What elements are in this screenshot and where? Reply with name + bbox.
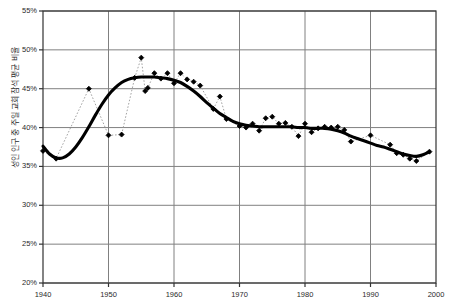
y-tick-label: 55% — [11, 7, 37, 15]
x-tick-label: 1990 — [356, 291, 386, 299]
y-tick-label: 20% — [11, 279, 37, 287]
church-attendance-chart: 성인 인구 중 주일 교회 참석 평균 비율 20%25%30%35%40%45… — [0, 0, 454, 303]
x-tick-label: 1980 — [290, 291, 320, 299]
y-tick-label: 40% — [11, 124, 37, 132]
x-tick-label: 1940 — [28, 291, 58, 299]
y-tick-label: 45% — [11, 85, 37, 93]
y-tick-label: 25% — [11, 240, 37, 248]
x-tick-label: 1970 — [225, 291, 255, 299]
x-tick-label: 1950 — [94, 291, 124, 299]
connector-line — [43, 58, 429, 161]
plot-area — [0, 0, 454, 303]
y-tick-label: 30% — [11, 201, 37, 209]
axis-ticks — [39, 11, 436, 287]
x-tick-label: 2000 — [421, 291, 451, 299]
y-tick-label: 35% — [11, 162, 37, 170]
y-tick-label: 50% — [11, 46, 37, 54]
x-tick-label: 1960 — [159, 291, 189, 299]
